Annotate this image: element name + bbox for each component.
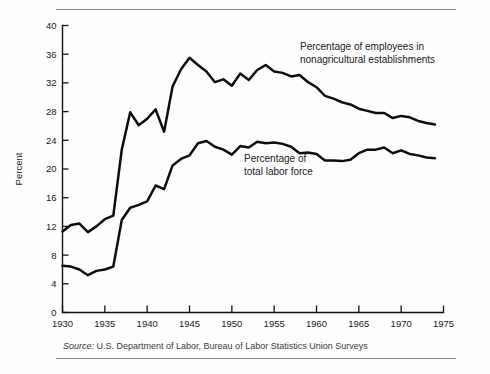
y-axis-ticks: 0481216202428323640 — [46, 20, 69, 318]
x-tick-label: 1955 — [264, 318, 285, 329]
y-tick-label: 4 — [51, 278, 56, 289]
series-line-nonagricultural-employees — [63, 58, 436, 232]
y-tick-label: 16 — [46, 192, 57, 203]
y-tick-label: 32 — [46, 77, 57, 88]
source-text: U.S. Department of Labor, Bureau of Labo… — [97, 341, 368, 351]
source-label: Source: — [63, 341, 94, 351]
x-tick-label: 1950 — [221, 318, 242, 329]
y-tick-label: 40 — [46, 20, 57, 31]
y-tick-label: 8 — [51, 250, 56, 261]
x-tick-label: 1970 — [391, 318, 412, 329]
y-tick-label: 24 — [46, 135, 57, 146]
x-tick-label: 1935 — [94, 318, 115, 329]
y-tick-label: 28 — [46, 106, 57, 117]
x-tick-label: 1965 — [348, 318, 369, 329]
annotation-total-labor-force: Percentage of total labor force — [244, 153, 313, 178]
x-tick-label: 1945 — [179, 318, 200, 329]
y-tick-label: 20 — [46, 163, 57, 174]
y-tick-label: 12 — [46, 221, 57, 232]
figure-container: 0481216202428323640 19301935194019451950… — [0, 0, 490, 374]
source-note: Source: U.S. Department of Labor, Bureau… — [63, 341, 368, 351]
x-tick-label: 1960 — [306, 318, 327, 329]
y-axis-title: Percent — [13, 152, 24, 185]
x-tick-label: 1930 — [52, 318, 73, 329]
y-axis-title-text: Percent — [13, 152, 24, 185]
y-tick-label: 0 — [51, 307, 56, 318]
x-tick-label: 1940 — [137, 318, 158, 329]
x-tick-label: 1975 — [433, 318, 454, 329]
annotation-nonagricultural-employees: Percentage of employees in nonagricultur… — [300, 41, 435, 66]
y-tick-label: 36 — [46, 49, 57, 60]
x-axis-ticks: 1930193519401945195019551960196519701975 — [52, 306, 454, 329]
